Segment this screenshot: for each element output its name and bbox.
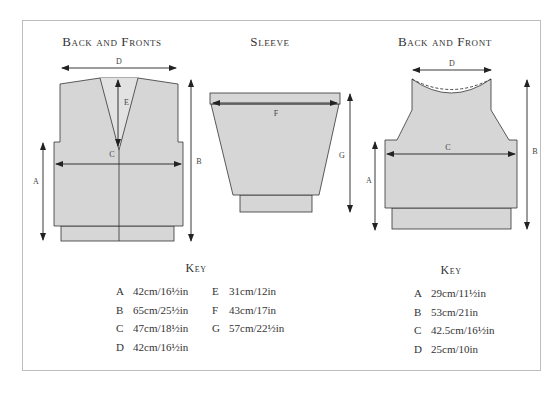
label-E: E (124, 98, 129, 107)
key-row: C47cm/18½in (116, 319, 188, 338)
label-B-right: B (532, 147, 537, 156)
key-row: D42cm/16½in (116, 338, 188, 357)
key-left-col1: A42cm/16½in B65cm/25½in C47cm/18½in D42c… (116, 282, 188, 356)
key-row: A29cm/11½in (414, 284, 495, 303)
label-F: F (274, 109, 279, 118)
sleeve-schematic: F G (210, 93, 350, 212)
vest-ribbing (61, 226, 174, 241)
label-D-right: D (449, 59, 455, 68)
sweater-ribbing (392, 208, 511, 229)
key-row: D25cm/10in (414, 340, 495, 359)
key-row: A42cm/16½in (116, 282, 188, 301)
key-row: F43cm/17in (212, 301, 284, 320)
key-row: G57cm/22½in (212, 319, 284, 338)
label-C-right: C (445, 143, 450, 152)
key-row: B53cm/21in (414, 303, 495, 322)
key-row: C42.5cm/16½in (414, 321, 495, 340)
label-A-right: A (366, 176, 372, 185)
key-title-right: Key (440, 263, 461, 278)
label-A: A (33, 177, 39, 186)
label-G: G (339, 151, 345, 160)
sleeve-top-band (210, 93, 340, 104)
sweater-schematic: D C A B (366, 59, 538, 230)
key-title-left: Key (185, 261, 206, 276)
label-C: C (109, 150, 114, 159)
label-D: D (116, 57, 122, 66)
key-row: E31cm/12in (212, 282, 284, 301)
key-right-col1: A29cm/11½in B53cm/21in C42.5cm/16½in D25… (414, 284, 495, 358)
vest-schematic: D E C A B (33, 57, 202, 241)
key-row: B65cm/25½in (116, 301, 188, 320)
label-B: B (196, 157, 201, 166)
sweater-body (385, 79, 517, 208)
sleeve-cuff (240, 195, 312, 212)
key-left-col2: E31cm/12in F43cm/17in G57cm/22½in (212, 282, 284, 338)
